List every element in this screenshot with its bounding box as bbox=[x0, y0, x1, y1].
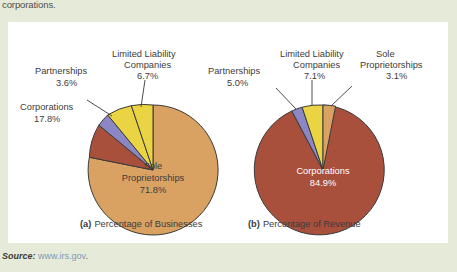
label-a-llc-pct: 6.7% bbox=[137, 71, 158, 81]
source-label: Source: bbox=[2, 251, 36, 261]
label-b-partnerships: Partnerships bbox=[208, 66, 261, 76]
label-a-corporations-pct: 17.8% bbox=[34, 114, 60, 124]
caption-b: (b)Percentage of Revenue bbox=[248, 219, 361, 229]
leader-line-b-partnerships bbox=[276, 88, 296, 109]
leader-line-a-partnerships bbox=[87, 100, 112, 116]
source-trailing-period: . bbox=[85, 251, 88, 261]
label-a-sole-pct: 71.8% bbox=[140, 185, 166, 195]
label-a-partnerships-pct: 3.6% bbox=[56, 78, 77, 88]
intro-paragraph-tail: corporations. bbox=[2, 0, 56, 10]
source-url-link[interactable]: www.irs.gov bbox=[38, 251, 85, 261]
label-b-partnerships-pct: 5.0% bbox=[227, 78, 248, 88]
label-a-llc-line2: Companies bbox=[124, 60, 171, 70]
pie-chart-a: Limited Liability Companies 6.7% Partner… bbox=[20, 49, 218, 235]
chart-panel: Limited Liability Companies 6.7% Partner… bbox=[8, 22, 448, 243]
caption-a: (a)Percentage of Businesses bbox=[80, 219, 202, 229]
leader-line-b-sole bbox=[331, 86, 352, 106]
figure-root: corporations. bbox=[0, 0, 457, 272]
label-a-corporations: Corporations bbox=[20, 102, 74, 112]
label-b-sole-pct: 3.1% bbox=[386, 71, 407, 81]
label-b-llc-pct: 7.1% bbox=[304, 71, 325, 81]
source-line: Source: www.irs.gov. bbox=[2, 251, 88, 261]
caption-b-marker: (b) bbox=[248, 219, 260, 229]
label-a-llc-line1: Limited Liability bbox=[112, 49, 176, 59]
label-a-sole-line2: Proprietorships bbox=[122, 173, 185, 183]
pie-charts-svg: Limited Liability Companies 6.7% Partner… bbox=[8, 22, 448, 243]
label-a-partnerships: Partnerships bbox=[35, 66, 88, 76]
pie-chart-b: Limited Liability Companies 7.1% Partner… bbox=[208, 49, 423, 235]
leader-line-a-llc bbox=[141, 80, 145, 107]
caption-a-marker: (a) bbox=[80, 219, 91, 229]
label-a-sole-line1: Sole bbox=[144, 161, 163, 171]
caption-b-text: Percentage of Revenue bbox=[263, 219, 361, 229]
label-b-corporations-pct: 84.9% bbox=[310, 178, 336, 188]
label-b-sole-line1: Sole bbox=[376, 49, 395, 59]
label-b-llc-line2: Companies bbox=[293, 60, 340, 70]
figure-wrapper: Limited Liability Companies 6.7% Partner… bbox=[8, 22, 448, 243]
label-b-corporations: Corporations bbox=[296, 166, 350, 176]
label-b-sole-line2: Proprietorships bbox=[360, 60, 423, 70]
label-b-llc-line1: Limited Liability bbox=[280, 49, 344, 59]
caption-a-text: Percentage of Businesses bbox=[94, 219, 202, 229]
